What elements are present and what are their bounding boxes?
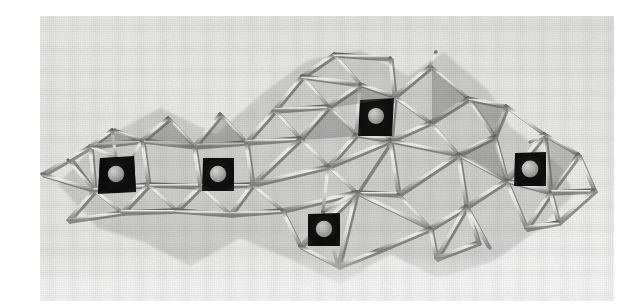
crystal-structure-model — [40, 16, 614, 301]
sphere-2 — [210, 166, 226, 182]
photograph-print-area — [40, 16, 614, 301]
cavity-2 — [202, 158, 234, 191]
sphere-1 — [108, 166, 124, 182]
sphere-4 — [316, 221, 332, 237]
figure-photograph: Black and white photograph of a physical… — [40, 16, 618, 305]
cavity-1 — [98, 156, 136, 194]
sphere-5 — [522, 161, 539, 178]
cavity-4 — [308, 213, 340, 246]
sphere-3 — [368, 108, 384, 124]
cavity-5 — [514, 152, 546, 186]
cavity-3 — [358, 98, 394, 136]
